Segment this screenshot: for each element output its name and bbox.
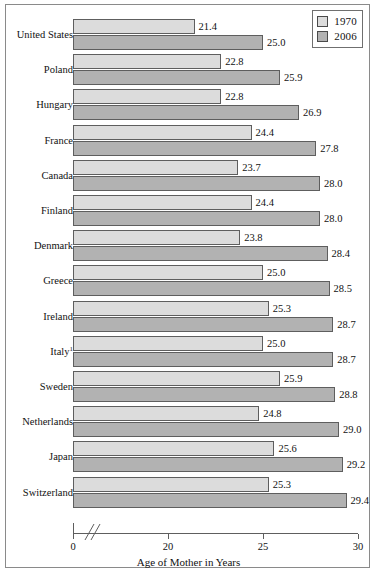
bar-value-2006-ireland: 28.7 — [337, 319, 355, 330]
x-tick-label-25: 25 — [258, 541, 269, 552]
bar-2006-denmark — [73, 246, 328, 261]
category-label-ireland: Ireland — [0, 311, 73, 322]
x-tick-20 — [168, 534, 169, 539]
x-tick-0 — [73, 534, 74, 539]
category-label-japan: Japan — [0, 451, 73, 462]
bar-2006-switzerland — [73, 493, 347, 508]
bar-1970-ireland — [73, 301, 269, 316]
bar-value-2006-netherlands: 29.0 — [343, 424, 361, 435]
bar-value-1970-denmark: 23.8 — [244, 232, 262, 243]
bar-value-1970-united-states: 21.4 — [199, 21, 217, 32]
bar-1970-france — [73, 125, 252, 140]
bar-1970-hungary — [73, 89, 221, 104]
bar-value-2006-canada: 28.0 — [324, 178, 342, 189]
bar-group: Sweden25.928.8 — [6, 371, 371, 403]
bar-1970-finland — [73, 195, 252, 210]
bar-group: Denmark23.828.4 — [6, 230, 371, 262]
axis-break-icon — [82, 523, 104, 543]
bar-2006-italy — [73, 352, 333, 367]
x-tick-label-20: 20 — [163, 541, 174, 552]
bar-2006-united-states — [73, 35, 263, 50]
bar-value-1970-poland: 22.8 — [225, 56, 243, 67]
bar-value-2006-sweden: 28.8 — [339, 389, 357, 400]
category-label-netherlands: Netherlands — [0, 416, 73, 427]
bar-value-2006-italy: 28.7 — [337, 354, 355, 365]
bar-value-2006-switzerland: 29.4 — [351, 495, 369, 506]
legend-item-2006[interactable]: 2006 — [317, 29, 357, 44]
bar-value-2006-hungary: 26.9 — [303, 107, 321, 118]
plot-area: United States21.425.0Poland22.825.9Hunga… — [6, 5, 371, 569]
bar-value-1970-hungary: 22.8 — [225, 91, 243, 102]
category-label-greece: Greece — [0, 275, 73, 286]
bar-group: Finland24.428.0 — [6, 195, 371, 227]
bar-value-1970-ireland: 25.3 — [273, 303, 291, 314]
bar-group: Poland22.825.9 — [6, 54, 371, 86]
x-tick-label-30: 30 — [353, 541, 364, 552]
bar-group: Hungary22.826.9 — [6, 89, 371, 121]
bar-value-2006-united-states: 25.0 — [267, 37, 285, 48]
category-label-canada: Canada — [0, 170, 73, 181]
x-axis-line — [73, 533, 358, 534]
legend-label-1970: 1970 — [334, 16, 357, 27]
bar-1970-poland — [73, 54, 221, 69]
bar-group: Switzerland25.329.4 — [6, 477, 371, 509]
bar-1970-denmark — [73, 230, 240, 245]
bar-1970-canada — [73, 160, 238, 175]
bar-value-1970-greece: 25.0 — [267, 267, 285, 278]
legend-label-2006: 2006 — [334, 31, 357, 42]
bar-2006-netherlands — [73, 422, 339, 437]
bar-2006-sweden — [73, 387, 335, 402]
chart-frame: United States21.425.0Poland22.825.9Hunga… — [5, 4, 370, 568]
bar-2006-greece — [73, 281, 330, 296]
bar-2006-japan — [73, 457, 343, 472]
bar-1970-united-states — [73, 19, 195, 34]
bar-2006-hungary — [73, 105, 299, 120]
bar-2006-france — [73, 141, 316, 156]
bar-group: Japan25.629.2 — [6, 441, 371, 473]
bar-value-1970-netherlands: 24.8 — [263, 408, 281, 419]
legend-swatch-1970 — [317, 16, 328, 27]
x-axis-label: Age of Mother in Years — [6, 556, 371, 568]
bar-2006-poland — [73, 70, 280, 85]
category-label-poland: Poland — [0, 64, 73, 75]
bar-1970-japan — [73, 441, 274, 456]
bar-1970-italy — [73, 336, 263, 351]
bar-group: Netherlands24.829.0 — [6, 406, 371, 438]
bar-group: Ireland25.328.7 — [6, 301, 371, 333]
category-label-finland: Finland — [0, 205, 73, 216]
bar-group: Greece25.028.5 — [6, 265, 371, 297]
bar-2006-ireland — [73, 317, 333, 332]
category-label-sweden: Sweden — [0, 381, 73, 392]
legend: 1970 2006 — [312, 10, 363, 48]
bar-value-1970-canada: 23.7 — [242, 162, 260, 173]
bar-group: France24.427.8 — [6, 125, 371, 157]
category-label-italy: Italy1 — [0, 346, 73, 357]
bar-value-2006-greece: 28.5 — [334, 283, 352, 294]
bar-value-1970-finland: 24.4 — [256, 197, 274, 208]
bar-value-2006-poland: 25.9 — [284, 72, 302, 83]
bar-value-2006-japan: 29.2 — [347, 459, 365, 470]
bar-1970-sweden — [73, 371, 280, 386]
bar-value-2006-denmark: 28.4 — [332, 248, 350, 259]
bar-value-1970-switzerland: 25.3 — [273, 479, 291, 490]
category-label-hungary: Hungary — [0, 99, 73, 110]
bar-1970-netherlands — [73, 406, 259, 421]
bar-value-2006-france: 27.8 — [320, 143, 338, 154]
x-tick-label-0: 0 — [70, 541, 75, 552]
x-tick-25 — [263, 534, 264, 539]
bar-value-1970-sweden: 25.9 — [284, 373, 302, 384]
bar-2006-finland — [73, 211, 320, 226]
category-label-united-states: United States — [0, 29, 73, 40]
bar-value-1970-france: 24.4 — [256, 127, 274, 138]
category-label-france: France — [0, 135, 73, 146]
bar-group: Canada23.728.0 — [6, 160, 371, 192]
x-tick-30 — [358, 534, 359, 539]
legend-item-1970[interactable]: 1970 — [317, 14, 357, 29]
bar-1970-switzerland — [73, 477, 269, 492]
bar-value-2006-finland: 28.0 — [324, 213, 342, 224]
category-label-denmark: Denmark — [0, 240, 73, 251]
legend-swatch-2006 — [317, 31, 328, 42]
bar-1970-greece — [73, 265, 263, 280]
bar-2006-canada — [73, 176, 320, 191]
category-label-switzerland: Switzerland — [0, 487, 73, 498]
